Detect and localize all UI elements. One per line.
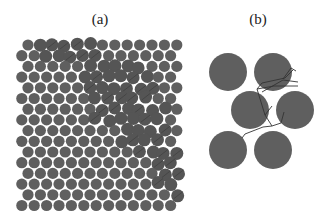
particle	[159, 39, 170, 50]
particle	[209, 53, 247, 91]
figure-canvas	[0, 0, 332, 222]
particle	[209, 131, 247, 169]
particle	[72, 125, 83, 136]
particle	[171, 82, 182, 93]
particle	[22, 125, 33, 136]
panel-b-particle-cluster	[209, 53, 314, 169]
particle	[103, 157, 114, 168]
panel-a-particle-lattice	[16, 37, 185, 211]
particle	[103, 50, 114, 61]
particle	[41, 179, 52, 190]
particle	[66, 93, 77, 104]
damaged-particle	[88, 91, 101, 104]
particle	[78, 179, 89, 190]
particle	[84, 146, 95, 157]
particle	[78, 114, 89, 125]
particle	[122, 168, 133, 179]
particle	[35, 125, 46, 136]
particle	[78, 136, 89, 147]
damaged-particle	[114, 69, 127, 82]
particle	[41, 200, 52, 211]
particle	[47, 125, 58, 136]
particle	[97, 125, 108, 136]
particle	[60, 61, 71, 72]
particle	[72, 146, 83, 157]
particle	[29, 50, 40, 61]
particle	[35, 189, 46, 200]
particle	[128, 179, 139, 190]
particle	[91, 200, 102, 211]
particle	[41, 72, 52, 83]
particle	[103, 136, 114, 147]
particle	[53, 114, 64, 125]
particle	[22, 104, 33, 115]
particle	[165, 72, 176, 83]
particle	[53, 136, 64, 147]
particle	[60, 104, 71, 115]
particle	[35, 61, 46, 72]
particle	[171, 104, 182, 115]
particle	[22, 189, 33, 200]
particle	[146, 189, 157, 200]
particle	[140, 157, 151, 168]
particle	[78, 200, 89, 211]
particle	[97, 39, 108, 50]
particle	[16, 179, 27, 190]
particle	[159, 189, 170, 200]
particle	[140, 200, 151, 211]
particle	[47, 189, 58, 200]
particle	[41, 157, 52, 168]
particle	[109, 39, 120, 50]
particle	[29, 114, 40, 125]
particle	[109, 189, 120, 200]
particle	[47, 61, 58, 72]
particle	[22, 61, 33, 72]
particle	[276, 91, 314, 129]
particle	[35, 82, 46, 93]
particle	[29, 93, 40, 104]
particle	[78, 157, 89, 168]
particle	[91, 157, 102, 168]
particle	[72, 61, 83, 72]
particle	[22, 39, 33, 50]
particle	[134, 168, 145, 179]
particle	[84, 189, 95, 200]
particle	[91, 179, 102, 190]
particle	[35, 146, 46, 157]
particle	[97, 189, 108, 200]
particle	[41, 114, 52, 125]
particle	[115, 200, 126, 211]
particle	[66, 157, 77, 168]
particle	[165, 50, 176, 61]
particle	[122, 39, 133, 50]
damaged-particle	[150, 112, 163, 125]
particle	[153, 50, 164, 61]
particle	[78, 93, 89, 104]
particle	[53, 179, 64, 190]
damaged-particle	[138, 133, 151, 146]
damaged-particle	[141, 70, 154, 83]
particle	[115, 157, 126, 168]
particle	[171, 39, 182, 50]
particle	[66, 200, 77, 211]
particle	[134, 39, 145, 50]
particle	[16, 114, 27, 125]
particle	[153, 93, 164, 104]
particle	[66, 179, 77, 190]
particle	[66, 72, 77, 83]
particle	[53, 72, 64, 83]
particle	[60, 189, 71, 200]
particle	[109, 125, 120, 136]
particle	[16, 72, 27, 83]
particle	[16, 93, 27, 104]
particle	[159, 61, 170, 72]
particle	[72, 168, 83, 179]
particle	[171, 125, 182, 136]
particle	[72, 189, 83, 200]
particle	[165, 136, 176, 147]
particle	[60, 146, 71, 157]
particle	[22, 82, 33, 93]
particle	[128, 200, 139, 211]
particle	[47, 168, 58, 179]
particle	[115, 50, 126, 61]
